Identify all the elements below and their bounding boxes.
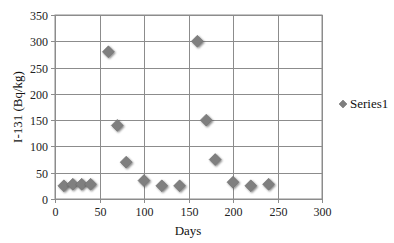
x-tick-label: 200 xyxy=(225,205,243,219)
data-point xyxy=(85,178,97,190)
x-tick-label: 250 xyxy=(270,205,288,219)
plot-area-border xyxy=(55,15,322,199)
y-tick-label: 350 xyxy=(30,9,48,23)
data-point xyxy=(111,119,123,131)
x-tick-label: 50 xyxy=(95,205,107,219)
data-point xyxy=(138,175,150,187)
x-tick-label: 300 xyxy=(314,205,332,219)
legend: Series1 xyxy=(339,96,388,111)
x-tick-label: 150 xyxy=(181,205,199,219)
x-axis-title: Days xyxy=(175,223,202,238)
x-tick-label: 100 xyxy=(136,205,154,219)
x-tick-label: 0 xyxy=(53,205,59,219)
y-tick-labels: 050100150200250300350 xyxy=(30,9,48,207)
y-tick-label: 0 xyxy=(42,193,48,207)
y-tick-label: 150 xyxy=(30,114,48,128)
y-tick-label: 100 xyxy=(30,140,48,154)
data-point xyxy=(227,176,239,188)
legend-marker-icon xyxy=(339,100,347,108)
grid xyxy=(51,15,323,203)
data-point xyxy=(245,180,257,192)
y-tick-label: 250 xyxy=(30,62,48,76)
data-point xyxy=(191,35,203,47)
data-point xyxy=(263,178,275,190)
data-point xyxy=(209,154,221,166)
data-point xyxy=(156,180,168,192)
legend-label: Series1 xyxy=(350,96,388,111)
data-point xyxy=(174,180,186,192)
scatter-chart: 050100150200250300350 050100150200250300… xyxy=(0,0,394,243)
data-point xyxy=(200,114,212,126)
x-tick-labels: 050100150200250300 xyxy=(53,205,332,219)
data-points xyxy=(58,35,275,192)
y-tick-label: 300 xyxy=(30,35,48,49)
y-tick-label: 200 xyxy=(30,88,48,102)
y-tick-label: 50 xyxy=(36,167,48,181)
data-point xyxy=(102,46,114,58)
y-axis-title: I-131 (Bq/kg) xyxy=(10,71,25,143)
data-point xyxy=(120,156,132,168)
